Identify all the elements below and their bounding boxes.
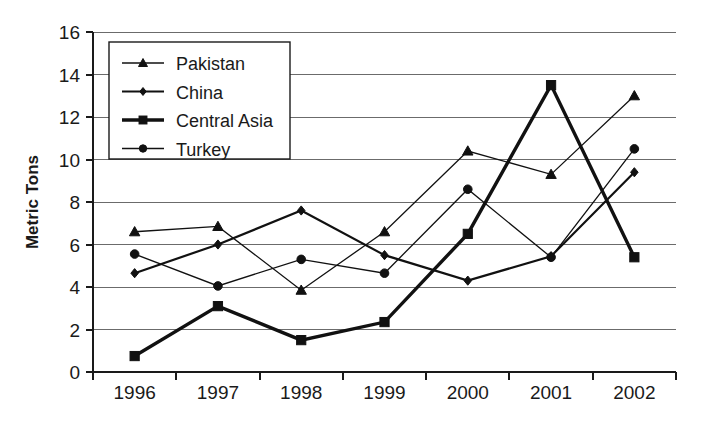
y-axis-title: Metric Tons	[23, 155, 42, 249]
data-point-marker-square	[213, 302, 222, 311]
data-point-marker-diamond	[381, 251, 389, 260]
x-axis-tick-labels: 1996199719981999200020012002	[114, 382, 656, 403]
data-point-marker-triangle	[213, 221, 223, 230]
data-point-marker-square	[139, 116, 147, 124]
y-tick-label: 6	[69, 235, 80, 256]
data-point-marker-square	[463, 229, 472, 238]
data-point-marker-square	[546, 81, 555, 90]
data-point-marker-square	[630, 253, 639, 262]
data-point-marker-triangle	[629, 91, 639, 100]
line-chart: 0246810121416 19961997199819992000200120…	[0, 0, 701, 426]
series-line	[135, 149, 635, 286]
legend-label: Pakistan	[176, 54, 245, 74]
y-tick-label: 8	[69, 192, 80, 213]
data-point-marker-triangle	[296, 285, 306, 294]
data-point-marker-diamond	[464, 276, 472, 285]
data-point-marker-diamond	[131, 269, 139, 278]
data-point-marker-circle	[630, 145, 639, 154]
data-point-marker-square	[130, 351, 139, 360]
chart-canvas: 0246810121416 19961997199819992000200120…	[0, 0, 701, 426]
data-point-marker-diamond	[297, 206, 305, 215]
y-tick-label: 0	[69, 362, 80, 383]
y-tick-label: 4	[69, 277, 80, 298]
data-point-marker-circle	[130, 250, 139, 259]
x-tick-label: 1999	[363, 382, 405, 403]
x-tick-label: 1998	[280, 382, 322, 403]
data-point-marker-circle	[297, 255, 306, 264]
series-turkey	[130, 145, 638, 291]
y-tick-label: 2	[69, 320, 80, 341]
x-tick-label: 1997	[197, 382, 239, 403]
y-tick-label: 16	[59, 22, 80, 43]
legend-label: Turkey	[176, 140, 230, 160]
data-point-marker-circle	[139, 145, 146, 152]
chart-legend: PakistanChinaCentral AsiaTurkey	[109, 42, 290, 160]
x-tick-label: 2001	[530, 382, 572, 403]
data-point-marker-circle	[214, 282, 223, 291]
y-tick-label: 10	[59, 150, 80, 171]
x-tick-label: 1996	[114, 382, 156, 403]
legend-label: China	[176, 83, 224, 103]
y-axis-tick-labels: 0246810121416	[59, 22, 81, 383]
data-point-marker-square	[380, 317, 389, 326]
y-tick-label: 14	[59, 65, 81, 86]
x-tick-label: 2000	[447, 382, 489, 403]
x-tick-label: 2002	[613, 382, 655, 403]
data-point-marker-diamond	[214, 240, 222, 249]
data-point-marker-circle	[547, 253, 556, 262]
y-tick-label: 12	[59, 107, 80, 128]
data-point-marker-circle	[380, 269, 389, 278]
data-point-marker-circle	[463, 185, 472, 194]
data-point-marker-triangle	[463, 146, 473, 155]
legend-label: Central Asia	[176, 111, 274, 131]
data-point-marker-square	[297, 336, 306, 345]
